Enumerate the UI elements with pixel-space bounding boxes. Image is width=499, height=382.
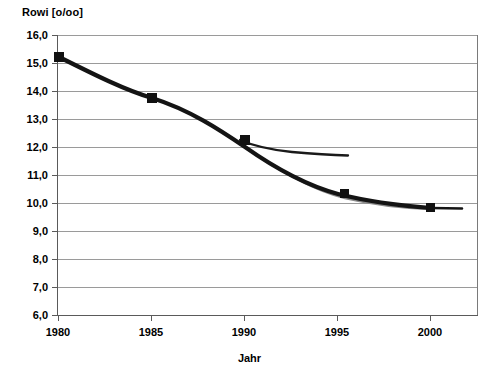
data-point-2000	[426, 203, 435, 212]
series-tail-2000	[431, 208, 462, 209]
data-point-1980	[54, 52, 64, 62]
data-point-1995	[340, 189, 349, 198]
data-point-1990	[240, 135, 250, 145]
x-tick-marks	[59, 316, 431, 321]
y-tick-marks	[52, 36, 57, 316]
chart-container: Rowi [o/oo] 16,0 15,0 14,0 13,0 12,0 11,…	[0, 0, 499, 382]
plot-area	[0, 0, 499, 382]
data-point-1985	[147, 93, 157, 103]
